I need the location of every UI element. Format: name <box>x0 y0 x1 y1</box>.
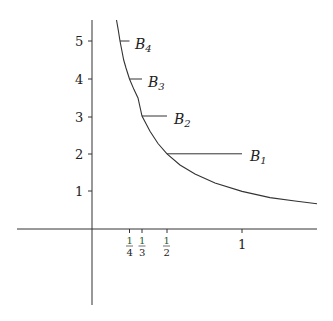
x-tick-quarter-num: 1 <box>127 235 133 246</box>
y-ticks: 1 2 3 4 5 <box>75 34 92 199</box>
label-b2: B2 <box>173 111 191 129</box>
y-tick-label-3: 3 <box>75 110 83 125</box>
y-tick-label-4: 4 <box>75 72 83 87</box>
x-ticks: 1 4 1 3 1 2 1 <box>126 229 246 258</box>
x-tick-third-num: 1 <box>139 235 145 246</box>
x-tick-half-den: 2 <box>164 247 170 258</box>
x-tick-label-1: 1 <box>238 237 246 252</box>
label-b4: B4 <box>134 36 152 54</box>
hyperbola-diagram: 1 2 3 4 5 1 4 1 3 1 2 1 B1 B2 B3 B4 <box>0 0 333 321</box>
x-tick-quarter-den: 4 <box>127 247 133 258</box>
segment-labels: B1 B2 B3 B4 <box>134 36 267 166</box>
x-tick-half-num: 1 <box>164 235 170 246</box>
x-tick-third-den: 3 <box>139 247 145 258</box>
label-b1: B1 <box>249 148 267 166</box>
y-tick-label-2: 2 <box>75 147 83 162</box>
y-tick-label-5: 5 <box>75 34 83 49</box>
y-tick-label-1: 1 <box>75 184 83 199</box>
label-b3: B3 <box>147 74 165 92</box>
